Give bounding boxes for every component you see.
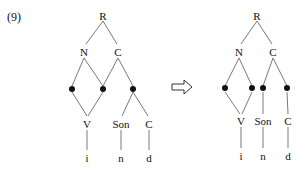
edge-n-dot2 (84, 58, 103, 86)
right-tree: R N C V Son C i n d (222, 10, 292, 162)
node-n: N (80, 46, 88, 58)
timing-slot-dot (100, 86, 106, 92)
left-tree: R N C V Son C i n d (69, 10, 153, 164)
node-coda-c: C (145, 118, 152, 130)
edge-c-dot3 (263, 58, 273, 86)
segment-n: n (260, 150, 266, 162)
edge-dot2-v (88, 92, 103, 116)
node-c: C (269, 46, 276, 58)
edge-n-dot2 (239, 58, 252, 86)
node-coda-c: C (284, 115, 291, 127)
hollow-right-arrow-icon (172, 80, 192, 94)
segment-d: d (285, 150, 291, 162)
edge-dot2-v (242, 92, 252, 114)
node-son: Son (254, 115, 272, 127)
timing-slot-dot (249, 85, 255, 91)
node-r: R (253, 10, 261, 22)
timing-slot-dot (222, 85, 228, 91)
node-n: N (235, 46, 243, 58)
syllable-structure-diagram: (9) R N C V Son C i n d (0, 0, 304, 175)
edge-dot3-c (133, 92, 148, 116)
segment-i: i (85, 152, 88, 164)
timing-slot-dot (130, 86, 136, 92)
edge-r-c (257, 21, 272, 44)
edge-dot4-c (287, 92, 288, 114)
node-v: V (83, 118, 91, 130)
timing-slot-dot (260, 85, 266, 91)
edge-dot3-son (122, 92, 133, 116)
edge-n-dot1 (225, 58, 239, 86)
node-v: V (237, 115, 245, 127)
edge-dot1-v (225, 92, 240, 114)
timing-slot-dot (284, 85, 290, 91)
segment-i: i (239, 150, 242, 162)
edge-dot1-v (72, 92, 87, 116)
timing-slot-dot (69, 86, 75, 92)
node-c: C (114, 46, 121, 58)
segment-d: d (146, 152, 152, 164)
edge-c-dot2 (103, 58, 118, 86)
edge-c-dot3 (118, 58, 133, 86)
node-r: R (99, 10, 107, 22)
example-number: (9) (7, 10, 21, 24)
edge-n-dot1 (72, 58, 84, 86)
edge-r-c (103, 21, 117, 44)
segment-n: n (118, 152, 124, 164)
node-son: Son (112, 118, 130, 130)
edge-r-n (241, 21, 257, 44)
edge-r-n (86, 21, 103, 44)
edge-c-dot4 (273, 58, 287, 86)
